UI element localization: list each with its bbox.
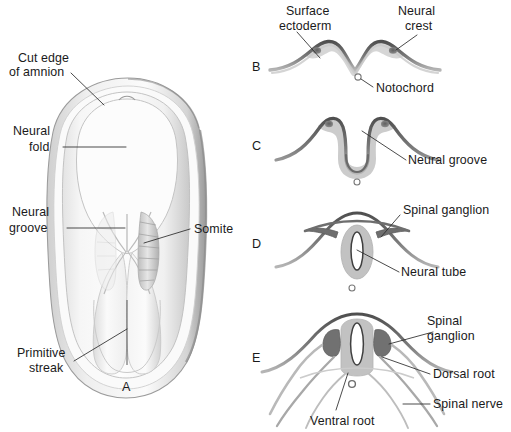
c-neural-ectoderm-shade xyxy=(318,119,396,179)
e-spinal-nerve-right xyxy=(380,357,437,426)
c-neural-crest-left xyxy=(325,121,333,127)
label-surface-ectoderm-line2: ectoderm xyxy=(279,19,331,33)
panel-a-illustration xyxy=(47,78,206,398)
label-ventral-root: Ventral root xyxy=(310,414,375,428)
e-ventral-root-right xyxy=(369,374,408,428)
panel-b-illustration xyxy=(270,41,440,80)
d-neural-tube-lumen xyxy=(351,232,363,270)
panel-e-illustration xyxy=(262,314,452,428)
d-notochord xyxy=(349,285,355,291)
b-neural-crest-right xyxy=(389,47,397,53)
label-neural-crest-line2: crest xyxy=(405,19,433,33)
figure-canvas: Cut edge of amnion Neural fold Neural gr… xyxy=(0,0,511,432)
label-neural-groove-line2: groove xyxy=(9,221,48,235)
label-spinal-ganglion-e-line2: ganglion xyxy=(427,329,475,343)
label-neural-groove-c: Neural groove xyxy=(408,153,487,167)
label-spinal-ganglion-e-line1: Spinal xyxy=(427,314,462,328)
label-notochord: Notochord xyxy=(376,81,434,95)
panel-letter-b: B xyxy=(252,60,260,74)
b-neural-crest-left xyxy=(313,47,321,53)
leader-neural-crest xyxy=(396,35,417,50)
panel-letter-c: C xyxy=(252,139,261,153)
neurulation-figure: Cut edge of amnion Neural fold Neural gr… xyxy=(0,0,511,432)
label-neural-fold-line1: Neural xyxy=(13,124,50,138)
label-neural-groove-line1: Neural xyxy=(12,205,49,219)
leader-notochord xyxy=(361,79,373,87)
c-neural-crest-right xyxy=(381,121,389,127)
c-notochord xyxy=(354,179,360,185)
label-surface-ectoderm-line1: Surface xyxy=(286,4,329,18)
e-spinal-ganglion-left xyxy=(323,330,340,357)
label-neural-fold-line2: fold xyxy=(29,140,49,154)
label-primitive-streak-line1: Primitive xyxy=(17,346,65,360)
e-spinal-ganglion-right xyxy=(374,330,391,357)
label-dorsal-root: Dorsal root xyxy=(433,367,495,381)
label-somite: Somite xyxy=(194,222,233,236)
panel-c-illustration xyxy=(276,118,438,185)
label-neural-tube-d: Neural tube xyxy=(401,265,466,279)
label-cut-edge-of-amnion-line2: of amnion xyxy=(9,65,64,79)
leader-ventral-root xyxy=(336,373,348,410)
panel-d-illustration xyxy=(276,213,438,291)
b-notochord xyxy=(355,74,361,80)
panel-letter-d: D xyxy=(252,237,261,251)
label-spinal-ganglion-d: Spinal ganglion xyxy=(403,203,489,217)
label-cut-edge-of-amnion-line1: Cut edge xyxy=(18,51,69,65)
e-notochord xyxy=(349,381,356,388)
label-spinal-nerve: Spinal nerve xyxy=(433,397,503,411)
panel-letter-a: A xyxy=(122,380,131,394)
label-neural-crest-line1: Neural xyxy=(398,4,435,18)
label-primitive-streak-line2: streak xyxy=(29,361,64,375)
panel-letter-e: E xyxy=(252,351,260,365)
e-neural-tube-lumen xyxy=(351,323,364,365)
